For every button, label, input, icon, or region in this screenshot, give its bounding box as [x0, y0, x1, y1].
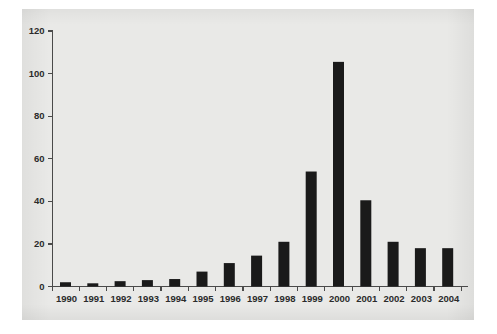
- bar: [251, 256, 262, 287]
- bar: [142, 280, 153, 286]
- x-tick-label: 1992: [111, 293, 132, 304]
- bar: [278, 242, 289, 287]
- bar: [115, 281, 126, 286]
- x-tick-label: 1998: [274, 293, 295, 304]
- bar: [360, 200, 371, 286]
- bar: [224, 263, 235, 286]
- bar: [442, 248, 453, 286]
- x-axis: [52, 287, 468, 292]
- x-tick-label: 1996: [220, 293, 241, 304]
- bar: [169, 279, 180, 286]
- chart-screenshot: 020406080100120 199019911992199319941995…: [0, 0, 497, 334]
- x-tick-label: 2000: [329, 293, 350, 304]
- x-tick-label: 2003: [411, 293, 432, 304]
- bar: [197, 272, 208, 287]
- bar-group: [60, 62, 453, 287]
- bar: [415, 248, 426, 286]
- bar: [87, 283, 98, 286]
- y-tick-label: 120: [29, 25, 45, 36]
- x-tick-label: 1999: [302, 293, 323, 304]
- x-tick-label: 1997: [247, 293, 268, 304]
- y-tick-label: 100: [29, 68, 45, 79]
- bar: [60, 282, 71, 286]
- x-tick-label: 1994: [165, 293, 187, 304]
- x-tick-label: 1991: [83, 293, 105, 304]
- x-tick-label: 2002: [384, 293, 405, 304]
- x-tick-label: 2001: [356, 293, 378, 304]
- bar: [388, 242, 399, 287]
- y-tick-label: 0: [39, 281, 44, 292]
- x-tick-label: 2004: [438, 293, 460, 304]
- y-tick-label: 60: [34, 153, 45, 164]
- y-axis: 020406080100120: [29, 25, 53, 292]
- x-tick-label: 1990: [56, 293, 77, 304]
- bar-chart: 020406080100120 199019911992199319941995…: [0, 0, 497, 334]
- x-tick-label: 1995: [192, 293, 214, 304]
- bar: [333, 62, 344, 287]
- x-tick-label: 1993: [138, 293, 159, 304]
- y-tick-group: 020406080100120: [29, 25, 53, 292]
- x-label-group: 1990199119921993199419951996199719981999…: [56, 293, 460, 304]
- y-tick-label: 20: [34, 238, 45, 249]
- y-tick-label: 40: [34, 195, 45, 206]
- bar: [306, 172, 317, 287]
- y-tick-label: 80: [34, 110, 45, 121]
